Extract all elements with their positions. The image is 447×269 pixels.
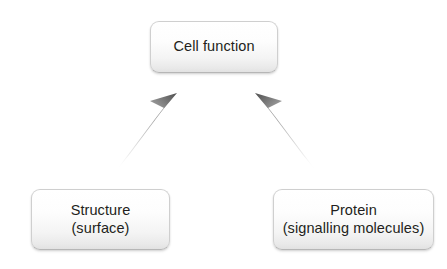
node-protein[interactable]: Protein (signalling molecules) <box>273 189 434 250</box>
arrow-structure-to-cell-function <box>115 93 177 172</box>
node-cell-function-label: Cell function <box>167 38 260 56</box>
node-structure-label: Structure (surface) <box>65 202 137 237</box>
node-protein-label: Protein (signalling molecules) <box>277 202 431 237</box>
diagram-canvas: Cell function Structure (surface) Protei… <box>0 0 447 269</box>
node-structure[interactable]: Structure (surface) <box>31 189 170 250</box>
node-cell-function[interactable]: Cell function <box>150 21 278 73</box>
arrow-protein-to-cell-function <box>255 93 317 172</box>
